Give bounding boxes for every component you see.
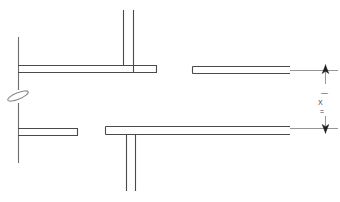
- drawing-background: [0, 0, 340, 202]
- dimension-upper-tick: —: [321, 89, 328, 96]
- dimension-lower-tick: =: [320, 108, 324, 115]
- technical-drawing-canvas: — X =: [0, 0, 340, 202]
- drawing-svg: — X =: [0, 0, 340, 202]
- dimension-value-label: X: [318, 99, 323, 106]
